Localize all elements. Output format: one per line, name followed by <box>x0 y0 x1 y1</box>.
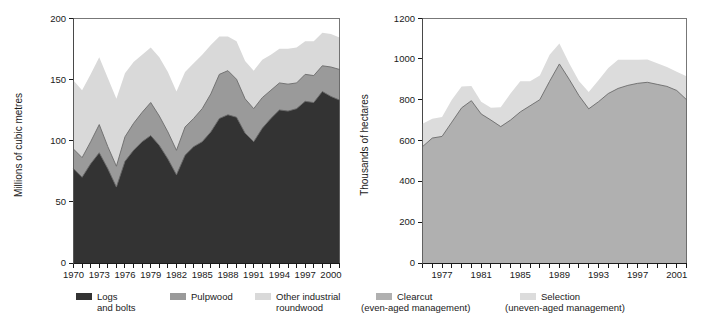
x-tick-label-1970: 1970 <box>63 269 84 280</box>
right-stacked-areas <box>423 44 687 263</box>
right-ytick-1200: 1200 <box>394 13 415 24</box>
legend-label-logs-line1: Logs <box>97 291 118 302</box>
legend-label-other-line2: roundwood <box>276 302 323 313</box>
x-tick-label-1976: 1976 <box>114 269 135 280</box>
left-y-axis-title: Millions of cubic metres <box>13 93 24 197</box>
right-x-tickmarks <box>423 264 687 268</box>
right-ytick-200: 200 <box>399 216 415 227</box>
x-tick-label-1991: 1991 <box>243 269 264 280</box>
right-y-axis-title: Thousands of hectares <box>359 94 370 196</box>
right-x-ticklabels: 1977198119851989199319972001 <box>431 269 687 280</box>
left-ytick-200: 200 <box>50 13 66 24</box>
left-ytick-150: 150 <box>50 74 66 85</box>
legend-swatch-clearcut <box>376 293 392 300</box>
x-tick-label-1973: 1973 <box>89 269 110 280</box>
left-stacked-areas <box>74 33 340 263</box>
x-tick-label-1982: 1982 <box>166 269 187 280</box>
legend-label-selection-line2: (uneven-aged management) <box>505 302 625 313</box>
x-tick-label-1985: 1985 <box>192 269 213 280</box>
figure-container: Millions of cubic metres 0 50 100 150 20… <box>0 0 705 332</box>
right-ytick-1000: 1000 <box>394 53 415 64</box>
right-ytick-0: 0 <box>410 257 415 268</box>
right-ytick-600: 600 <box>399 135 415 146</box>
x-tick-label-2000: 2000 <box>320 269 341 280</box>
legend-label-clearcut-line1: Clearcut <box>397 291 433 302</box>
legend-swatch-other-roundwood <box>255 293 271 300</box>
right-ytick-400: 400 <box>399 175 415 186</box>
right-ytick-800: 800 <box>399 94 415 105</box>
legend-label-other-line1: Other industrial <box>276 291 340 302</box>
x-tick-label-1997: 1997 <box>295 269 316 280</box>
chart-panel-roundwood: Millions of cubic metres 0 50 100 150 20… <box>0 0 352 332</box>
x-tick-label-1985: 1985 <box>510 269 531 280</box>
right-legend: Clearcut (even-aged management) Selectio… <box>361 291 625 313</box>
x-tick-label-1989: 1989 <box>549 269 570 280</box>
legend-label-selection-line1: Selection <box>541 291 580 302</box>
legend-label-clearcut-line2: (even-aged management) <box>361 302 470 313</box>
legend-swatch-pulpwood <box>170 293 186 300</box>
legend-label-pulpwood-line1: Pulpwood <box>191 291 233 302</box>
x-tick-label-1988: 1988 <box>217 269 238 280</box>
left-ytick-100: 100 <box>50 135 66 146</box>
x-tick-label-1997: 1997 <box>627 269 648 280</box>
left-x-ticklabels: 1970197319761979198219851988199119941997… <box>63 269 342 280</box>
left-x-tickmarks <box>74 264 340 268</box>
legend-swatch-logs <box>76 293 92 300</box>
left-ytick-50: 50 <box>55 196 66 207</box>
x-tick-label-1981: 1981 <box>471 269 492 280</box>
roundwood-area-chart: Millions of cubic metres 0 50 100 150 20… <box>0 0 352 332</box>
harvest-area-chart: Thousands of hectares 0 200 400 600 800 … <box>352 0 705 332</box>
legend-swatch-selection <box>520 293 536 300</box>
x-tick-label-1979: 1979 <box>140 269 161 280</box>
chart-panel-harvest-area: Thousands of hectares 0 200 400 600 800 … <box>352 0 705 332</box>
legend-label-logs-line2: and bolts <box>97 302 136 313</box>
x-tick-label-2001: 2001 <box>666 269 687 280</box>
x-tick-label-1977: 1977 <box>431 269 452 280</box>
left-legend: Logs and bolts Pulpwood Other industrial… <box>76 291 340 313</box>
x-tick-label-1994: 1994 <box>269 269 290 280</box>
left-ytick-0: 0 <box>61 257 66 268</box>
x-tick-label-1993: 1993 <box>588 269 609 280</box>
